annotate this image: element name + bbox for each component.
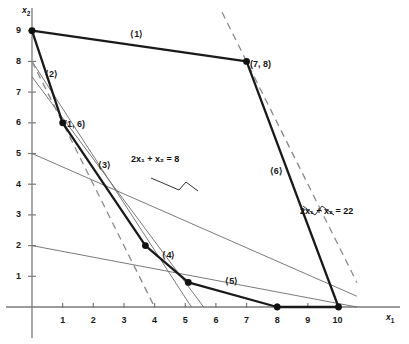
y-tick-label-9: 9: [16, 26, 21, 35]
x-axis-title: x1: [386, 313, 394, 324]
constraint-d: [32, 246, 357, 307]
vertex-markers-group: [29, 27, 342, 310]
y-tick-label-7: 7: [16, 88, 21, 97]
objective-8: [32, 61, 155, 307]
objective-label-8: 2x₁ + x₂ = 8: [131, 155, 179, 164]
edge-2-label: ⟨2⟩: [45, 70, 58, 79]
edge-1-label: ⟨1⟩: [130, 30, 143, 39]
vertex-10-0: [335, 304, 342, 311]
edge-6-label: ⟨6⟩: [270, 167, 283, 176]
objective-lines-group: [32, 12, 357, 307]
vertex-5.1-0.8: [185, 279, 192, 286]
y-tick-label-8: 8: [16, 57, 21, 66]
x-tick-label-5: 5: [183, 316, 188, 325]
y-tick-label-4: 4: [16, 180, 21, 189]
point-label-1-6: (1, 6): [64, 120, 85, 129]
point-label-7-8: (7, 8): [250, 60, 271, 69]
x-tick-label-10: 10: [333, 316, 343, 325]
x-tick-label-3: 3: [121, 316, 126, 325]
edge-3-label: ⟨3⟩: [98, 161, 111, 170]
y-axis-title: x2: [22, 6, 30, 17]
leader-eq-left: [151, 178, 198, 191]
y-tick-label-2: 2: [16, 241, 21, 250]
objective-label-22: 2x₁ + x₂ = 22: [300, 207, 353, 216]
y-tick-label-6: 6: [16, 118, 21, 127]
x-tick-label-1: 1: [60, 316, 65, 325]
edge-5-label: ⟨5⟩: [225, 277, 238, 286]
x-tick-label-7: 7: [244, 316, 249, 325]
x-tick-label-4: 4: [152, 316, 157, 325]
vertex-0-9: [29, 27, 36, 34]
vertex-8-0: [274, 304, 281, 311]
axes-group: [6, 8, 400, 338]
y-tick-label-5: 5: [16, 149, 21, 158]
plot-svg: [0, 0, 409, 344]
x-tick-label-9: 9: [305, 316, 310, 325]
y-tick-label-3: 3: [16, 210, 21, 219]
vertex-3.7-2: [142, 242, 149, 249]
edge-4-label: ⟨4⟩: [162, 251, 175, 260]
vertex-7-8: [243, 58, 250, 65]
objective-22: [222, 12, 357, 282]
figure-canvas: x2 x1 12345678910123456789 ⟨1⟩⟨2⟩⟨3⟩⟨4⟩⟨…: [0, 0, 409, 344]
x-tick-label-6: 6: [213, 316, 218, 325]
x-tick-label-2: 2: [91, 316, 96, 325]
feasible-region-boundary: [32, 31, 339, 307]
y-tick-label-1: 1: [16, 272, 21, 281]
x-tick-label-8: 8: [275, 316, 280, 325]
